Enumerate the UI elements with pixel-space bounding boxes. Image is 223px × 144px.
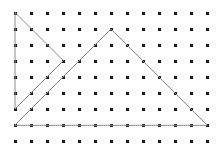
lattice-dot [206,44,209,47]
lattice-dot [142,108,145,111]
lattice-dot [126,76,129,79]
lattice-dot [190,140,193,143]
lattice-dot [190,92,193,95]
lattice-dot [46,60,49,63]
lattice-dot [126,60,129,63]
lattice-dot [78,12,81,15]
lattice-dot [190,60,193,63]
lattice-dot [206,60,209,63]
lattice-dot [206,92,209,95]
lattice-dot [46,28,49,31]
lattice-dot [78,28,81,31]
lattice-dot [142,28,145,31]
lattice-dot [94,92,97,95]
lattice-dot [62,28,65,31]
lattice-dot [78,140,81,143]
lattice-dot [158,44,161,47]
lattice-dot [158,60,161,63]
lattice-dot [174,140,177,143]
lattice-dot [206,140,209,143]
lattice-dot [142,76,145,79]
lattice-dot [174,60,177,63]
lattice-dot [110,92,113,95]
small-triangle-shape [15,13,63,109]
lattice-dot [94,60,97,63]
lattice-dot [46,12,49,15]
lattice-dot [110,108,113,111]
lattice-dot [126,92,129,95]
lattice-dot [30,76,33,79]
geoboard-figure [0,0,223,144]
lattice-dot [158,108,161,111]
lattice-dot [78,108,81,111]
geoboard-canvas [0,0,223,144]
lattice-dot [62,108,65,111]
lattice-dot [94,108,97,111]
lattice-dot [158,140,161,143]
dot-grid [14,12,209,143]
lattice-dot [110,140,113,143]
lattice-dot [158,28,161,31]
lattice-dot [62,12,65,15]
lattice-dot [190,28,193,31]
lattice-dot [94,140,97,143]
lattice-dot [158,92,161,95]
lattice-dot [190,12,193,15]
lattice-dot [206,76,209,79]
lattice-dot [142,12,145,15]
lattice-dot [46,108,49,111]
lattice-dot [94,28,97,31]
lattice-dot [30,140,33,143]
lattice-dot [30,44,33,47]
lattice-dot [174,12,177,15]
lattice-dot [126,140,129,143]
lattice-dot [206,108,209,111]
lattice-dot [62,140,65,143]
lattice-dot [110,76,113,79]
lattice-dot [78,76,81,79]
lattice-dot [174,28,177,31]
lattice-dot [174,76,177,79]
lattice-dot [126,28,129,31]
lattice-dot [190,76,193,79]
lattice-dot [62,92,65,95]
lattice-dot [174,44,177,47]
lattice-dot [110,60,113,63]
lattice-dot [110,44,113,47]
lattice-dot [142,140,145,143]
lattice-dot [206,12,209,15]
lattice-dot [30,12,33,15]
lattice-dot [14,140,17,143]
lattice-dot [190,44,193,47]
lattice-dot [142,92,145,95]
lattice-dot [126,108,129,111]
lattice-dot [78,44,81,47]
lattice-dot [142,44,145,47]
lattice-dot [110,12,113,15]
lattice-dot [78,92,81,95]
lattice-dot [174,108,177,111]
lattice-dot [46,140,49,143]
lattice-dot [62,44,65,47]
lattice-dot [158,12,161,15]
lattice-dot [94,12,97,15]
lattice-dot [206,28,209,31]
lattice-dot [94,76,97,79]
lattice-dot [30,60,33,63]
lattice-dot [126,12,129,15]
